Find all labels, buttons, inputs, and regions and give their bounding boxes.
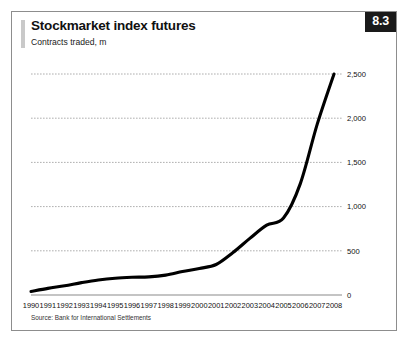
y-axis-tick-label: 1,000 xyxy=(347,202,366,211)
y-axis-tick-label: 1,500 xyxy=(347,158,366,167)
x-axis-tick-label: 2005 xyxy=(275,301,291,310)
x-axis-tick-label: 2003 xyxy=(242,301,258,310)
x-axis-tick-label: 1993 xyxy=(73,301,89,310)
y-axis-tick-label: 2,500 xyxy=(347,70,366,79)
title-accent-bar xyxy=(21,20,25,48)
line-chart-svg: 05001,0001,5002,0002,500 199019911992199… xyxy=(12,58,398,332)
x-axis-labels-group: 1990199119921993199419951996199719981999… xyxy=(23,301,342,310)
status-badge: 8.3 xyxy=(365,12,396,32)
x-axis-tick-label: 1998 xyxy=(157,301,173,310)
chart-card: Stockmarket index futures Contracts trad… xyxy=(11,11,397,331)
chart-header: Stockmarket index futures Contracts trad… xyxy=(12,12,396,58)
x-axis-tick-label: 1996 xyxy=(124,301,140,310)
x-axis-tick-label: 1992 xyxy=(56,301,72,310)
source-note: Source: Bank for International Settlemen… xyxy=(31,314,151,321)
series-line-contracts-traded xyxy=(31,74,334,291)
x-axis-tick-label: 1991 xyxy=(40,301,56,310)
x-axis-tick-label: 1990 xyxy=(23,301,39,310)
y-axis-tick-label: 0 xyxy=(347,291,351,300)
data-series-group xyxy=(31,74,334,291)
x-axis-tick-label: 2008 xyxy=(326,301,342,310)
x-axis-tick-label: 2001 xyxy=(208,301,224,310)
x-axis-tick-label: 2000 xyxy=(191,301,207,310)
y-axis-tick-label: 500 xyxy=(347,247,360,256)
page-title: Stockmarket index futures xyxy=(31,18,196,33)
x-axis-tick-label: 1994 xyxy=(90,301,106,310)
x-axis-tick-label: 1995 xyxy=(107,301,123,310)
gridlines-group xyxy=(31,74,342,295)
x-axis-tick-label: 2007 xyxy=(309,301,325,310)
y-axis-labels-group: 05001,0001,5002,0002,500 xyxy=(347,70,366,300)
x-axis-tick-label: 2004 xyxy=(258,301,274,310)
x-axis-tick-label: 1997 xyxy=(141,301,157,310)
chart-plot-area: 05001,0001,5002,0002,500 199019911992199… xyxy=(12,58,396,332)
y-axis-tick-label: 2,000 xyxy=(347,114,366,123)
chart-subtitle: Contracts traded, m xyxy=(31,37,106,47)
x-axis-tick-label: 1999 xyxy=(174,301,190,310)
x-axis-tick-label: 2006 xyxy=(292,301,308,310)
x-axis-tick-label: 2002 xyxy=(225,301,241,310)
